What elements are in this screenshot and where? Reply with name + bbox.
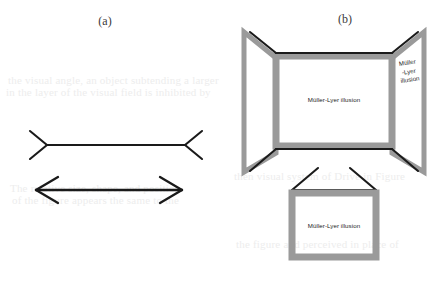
center-panel-label: Müller-Lyer illusion [298, 96, 370, 103]
fin-left-upper [30, 131, 47, 145]
converging-fin-lines-lower-box [292, 168, 376, 190]
left-panel-outline [244, 32, 276, 172]
arrowhead-right-lower [160, 190, 182, 203]
panel-a: (a) [0, 0, 224, 281]
top-fin-lines [250, 32, 418, 53]
panel-a-drawing [0, 0, 224, 281]
bottom-fin-right [392, 149, 418, 171]
left-side-panel-frame [244, 32, 276, 172]
arrowhead-right-upper [160, 177, 182, 190]
panel-b-drawing [224, 0, 447, 281]
panel-b: (b) [224, 0, 447, 281]
arrowhead-left-upper [36, 177, 58, 190]
muller-lyer-figure: the visual angle, an object subtending a… [0, 0, 447, 281]
fin-right-lower [185, 145, 202, 159]
fin-right-upper [185, 131, 202, 145]
lower-panel-label: Müller-Lyer illusion [298, 222, 370, 229]
fin-left-lower [30, 145, 47, 159]
fins-outward-figure [30, 131, 202, 159]
right-side-panel-frame [392, 32, 424, 172]
bottom-fin-left [250, 149, 276, 171]
right-panel-outline [392, 32, 424, 172]
converging-fin-left [292, 168, 318, 190]
double-headed-arrow-figure [36, 177, 182, 203]
arrowhead-left-lower [36, 190, 58, 203]
converging-fin-right [350, 168, 376, 190]
